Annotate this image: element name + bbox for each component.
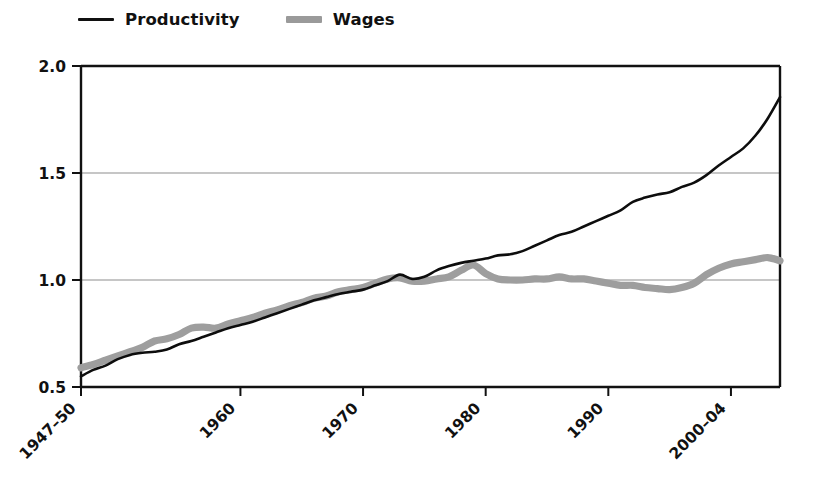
data-series: [81, 97, 780, 376]
x-tick-label-1980: 1980: [441, 399, 484, 442]
x-tick-label-1960: 1960: [196, 399, 239, 442]
x-tick-label-1970: 1970: [319, 399, 362, 442]
plot-frame: [81, 66, 780, 387]
y-axis-ticks: [72, 66, 81, 387]
y-axis-tick-labels: 0.51.01.52.0: [39, 58, 67, 397]
y-tick-label-1.5: 1.5: [39, 165, 66, 183]
productivity-wages-chart: Productivity Wages 0.51.01.52.0 1947–501…: [0, 0, 825, 479]
y-tick-label-0.5: 0.5: [39, 379, 66, 397]
x-tick-label-1990: 1990: [564, 399, 607, 442]
chart-svg: 0.51.01.52.0 1947–5019601970198019902000…: [0, 0, 825, 479]
x-axis-ticks: [81, 387, 731, 396]
x-axis-tick-labels: 1947–5019601970198019902000–04: [16, 399, 730, 463]
plot-area: 0.51.01.52.0 1947–5019601970198019902000…: [0, 0, 825, 479]
x-tick-label-1947-50: 1947–50: [16, 399, 80, 463]
x-tick-label-2000-04: 2000–04: [666, 399, 730, 463]
y-tick-label-1.0: 1.0: [39, 272, 67, 290]
y-tick-label-2.0: 2.0: [39, 58, 67, 76]
